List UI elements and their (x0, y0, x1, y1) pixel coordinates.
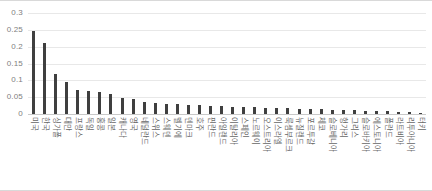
category-label: 독일 (85, 117, 93, 131)
category-label: 뉴질랜드 (295, 117, 303, 145)
bar[interactable] (364, 111, 367, 114)
y-axis-tick-label: 0.25 (7, 26, 23, 34)
y-axis-tick-label: 0 (18, 110, 23, 118)
category-label: 캐나다 (118, 117, 126, 138)
category-label-cell: 터키 (415, 116, 426, 182)
bar-cell (150, 13, 161, 114)
bar[interactable] (121, 98, 124, 114)
category-label-cell: 이스라엘 (271, 116, 282, 182)
bar-cell (72, 13, 83, 114)
bar-cell (128, 13, 139, 114)
bar-cell (194, 13, 205, 114)
category-label: 네덜란드 (140, 117, 148, 145)
bar[interactable] (386, 111, 389, 114)
bar[interactable] (342, 110, 345, 114)
bar[interactable] (54, 74, 57, 114)
category-label-cell: 오스트리아 (260, 116, 271, 182)
bar-cell (393, 13, 404, 114)
bar[interactable] (165, 104, 168, 114)
category-label: 일본 (107, 117, 115, 131)
category-label: 덴마크 (184, 117, 192, 138)
bar-cell (61, 13, 72, 114)
bar-cell (371, 13, 382, 114)
bar[interactable] (264, 108, 267, 114)
category-label: 아일랜드 (218, 117, 226, 145)
category-label: 오스트리아 (262, 117, 270, 152)
category-label-cell: 스위스 (150, 116, 161, 182)
category-label-cell: 영국 (128, 116, 139, 182)
bar-cell (28, 13, 39, 114)
bar-cell (294, 13, 305, 114)
category-label: 한국 (41, 117, 49, 131)
bar[interactable] (397, 112, 400, 114)
category-label: 싱가폴 (52, 117, 60, 138)
gridline (28, 114, 426, 115)
bar-cell (183, 13, 194, 114)
category-label: 스웨덴 (162, 117, 170, 138)
bar[interactable] (143, 102, 146, 114)
category-label: 폴란드 (384, 117, 392, 138)
bar[interactable] (76, 90, 79, 114)
bar-cell (349, 13, 360, 114)
category-label-cell: 슬로베니아 (327, 116, 338, 182)
category-label-cell: 폴란드 (382, 116, 393, 182)
bar[interactable] (353, 110, 356, 114)
bar-cell (360, 13, 371, 114)
bar[interactable] (98, 92, 101, 114)
bar[interactable] (65, 82, 68, 114)
category-label-cell: 프랑스 (72, 116, 83, 182)
chart-container: 0.30.250.20.150.10.050 미국한국싱가폴대만프랑스독일홍콩일… (0, 0, 432, 191)
bar[interactable] (176, 104, 179, 114)
bar[interactable] (132, 99, 135, 114)
bar-cell (105, 13, 116, 114)
bar[interactable] (198, 105, 201, 114)
category-label-cell: 뉴질랜드 (294, 116, 305, 182)
bar[interactable] (220, 106, 223, 114)
bar[interactable] (298, 109, 301, 114)
category-label: 체코 (317, 117, 325, 131)
bar[interactable] (231, 107, 234, 114)
category-label: 스페인 (240, 117, 248, 138)
bar[interactable] (320, 109, 323, 114)
bar[interactable] (242, 107, 245, 114)
category-label: 영국 (129, 117, 137, 131)
bar-cell (338, 13, 349, 114)
bar-cell (327, 13, 338, 114)
category-label: 리투아니아 (406, 117, 414, 152)
bar[interactable] (309, 109, 312, 114)
bar[interactable] (375, 111, 378, 114)
category-label-cell: 홍콩 (94, 116, 105, 182)
bar-cell (205, 13, 216, 114)
bar[interactable] (209, 106, 212, 114)
bar[interactable] (408, 112, 411, 114)
category-label-cell: 캐나다 (117, 116, 128, 182)
category-label: 미국 (30, 117, 38, 131)
category-label-cell: 포르투갈 (305, 116, 316, 182)
bar[interactable] (43, 43, 46, 114)
bar-cell (382, 13, 393, 114)
bar[interactable] (253, 107, 256, 114)
bar[interactable] (286, 108, 289, 114)
bar[interactable] (109, 94, 112, 114)
bar[interactable] (419, 113, 422, 114)
category-label-cell: 한국 (39, 116, 50, 182)
y-axis-tick-label: 0.15 (7, 60, 23, 68)
category-label: 이스라엘 (273, 117, 281, 145)
category-label: 슬로베니아 (328, 117, 336, 152)
bar-cell (117, 13, 128, 114)
category-label-cell: 이탈리아 (227, 116, 238, 182)
bar-cell (271, 13, 282, 114)
bar-series (28, 13, 426, 114)
category-label: 벨기에 (173, 117, 181, 138)
bar[interactable] (275, 108, 278, 114)
category-label-cell: 네덜란드 (139, 116, 150, 182)
bar[interactable] (87, 91, 90, 114)
bar-cell (260, 13, 271, 114)
bar[interactable] (32, 31, 35, 114)
category-label-cell: 대만 (61, 116, 72, 182)
bar[interactable] (331, 110, 334, 114)
bar[interactable] (154, 103, 157, 114)
bar[interactable] (187, 105, 190, 114)
category-label-cell: 그리스 (349, 116, 360, 182)
category-label-cell: 에스토니아 (371, 116, 382, 182)
